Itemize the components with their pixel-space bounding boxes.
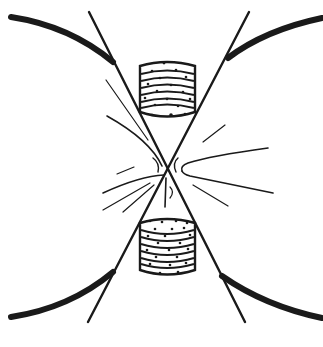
top-cylinder [140,62,195,117]
arc-bottom-right [222,276,322,318]
arc-top-left [11,17,113,62]
arc-bottom-left [11,272,113,317]
diagram-canvas [0,0,323,347]
bottom-cylinder [140,219,195,275]
